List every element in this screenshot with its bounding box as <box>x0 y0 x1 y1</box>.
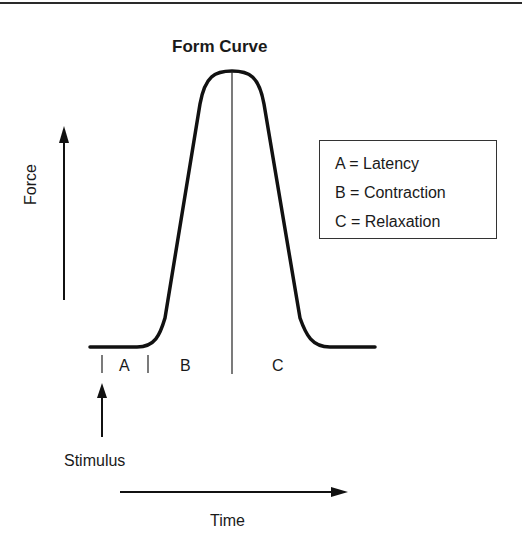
legend-item-contraction: B = Contraction <box>335 178 496 207</box>
force-axis-arrow <box>59 126 69 300</box>
segment-label-c: C <box>272 357 284 375</box>
time-axis-arrow <box>120 487 348 497</box>
diagram-title: Form Curve <box>172 37 267 57</box>
stimulus-label: Stimulus <box>64 452 125 470</box>
segment-label-a: A <box>119 357 130 375</box>
force-axis-label: Force <box>22 164 40 205</box>
stimulus-arrow <box>97 383 107 437</box>
legend-box: A = Latency B = Contraction C = Relaxati… <box>319 140 497 239</box>
legend-item-relaxation: C = Relaxation <box>335 207 496 236</box>
segment-label-b: B <box>180 357 191 375</box>
time-axis-label: Time <box>210 512 245 530</box>
legend-item-latency: A = Latency <box>335 149 496 178</box>
